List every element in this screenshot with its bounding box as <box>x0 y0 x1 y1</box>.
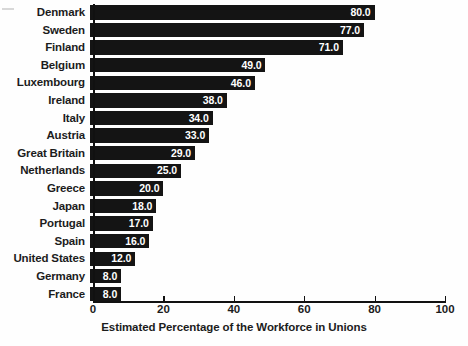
bar-value-label: 77.0 <box>340 25 360 36</box>
chart-row: Ireland38.0 <box>0 92 468 110</box>
bar-value-label: 8.0 <box>103 289 117 300</box>
chart-row: Italy34.0 <box>0 110 468 128</box>
bar-value-label: 12.0 <box>111 253 131 264</box>
category-label: Austria <box>0 130 90 142</box>
chart-row: Greece20.0 <box>0 180 468 198</box>
category-label: Sweden <box>0 25 90 37</box>
chart-row: Belgium49.0 <box>0 57 468 75</box>
bar: 49.0 <box>90 58 265 72</box>
bar-track: 20.0 <box>90 180 468 198</box>
chart-row: Spain16.0 <box>0 233 468 251</box>
category-label: United States <box>0 253 90 265</box>
bar-track: 17.0 <box>90 215 468 233</box>
category-label: Germany <box>0 271 90 283</box>
bar-value-label: 33.0 <box>185 130 205 141</box>
bar: 34.0 <box>90 111 213 125</box>
x-axis-tick-label: 100 <box>435 304 454 316</box>
bar-value-label: 8.0 <box>103 271 117 282</box>
bar: 18.0 <box>90 199 156 213</box>
bar-value-label: 71.0 <box>319 42 339 53</box>
bar-track: 77.0 <box>90 22 468 40</box>
chart-row: Denmark80.0 <box>0 4 468 22</box>
category-label: Spain <box>0 236 90 248</box>
x-axis-tick-label: 0 <box>90 304 96 316</box>
x-axis-tick-label: 40 <box>227 304 240 316</box>
bar-value-label: 16.0 <box>125 236 145 247</box>
bar-value-label: 34.0 <box>189 113 209 124</box>
bar: 17.0 <box>90 216 153 230</box>
x-axis-tick-label: 80 <box>368 304 381 316</box>
chart-row: Great Britain29.0 <box>0 145 468 163</box>
bar: 12.0 <box>90 252 135 266</box>
bar-track: 25.0 <box>90 162 468 180</box>
chart-row: Netherlands25.0 <box>0 162 468 180</box>
x-axis-tick <box>375 296 376 302</box>
category-label: France <box>0 289 90 301</box>
bar-track: 12.0 <box>90 250 468 268</box>
category-label: Denmark <box>0 7 90 19</box>
category-label: Greece <box>0 183 90 195</box>
bar-value-label: 38.0 <box>203 95 223 106</box>
category-label: Belgium <box>0 60 90 72</box>
chart-row: Luxembourg46.0 <box>0 74 468 92</box>
category-label: Ireland <box>0 95 90 107</box>
bar-track: 18.0 <box>90 198 468 216</box>
category-label: Japan <box>0 201 90 213</box>
x-axis-tick <box>304 296 305 302</box>
bar: 80.0 <box>90 5 375 19</box>
x-axis-tick <box>445 296 446 302</box>
category-label: Luxembourg <box>0 77 90 89</box>
chart-row: United States12.0 <box>0 250 468 268</box>
bar-track: 49.0 <box>90 57 468 75</box>
bar-track: 16.0 <box>90 233 468 251</box>
x-axis-title: Estimated Percentage of the Workforce in… <box>0 321 468 333</box>
bar-value-label: 80.0 <box>351 7 371 18</box>
bar-track: 71.0 <box>90 39 468 57</box>
x-axis-tick <box>163 296 164 302</box>
bar: 16.0 <box>90 234 149 248</box>
chart-row: Sweden77.0 <box>0 22 468 40</box>
bar-value-label: 46.0 <box>231 78 251 89</box>
bar-track: 80.0 <box>90 4 468 22</box>
x-axis-line <box>93 301 446 303</box>
x-axis-tick-label: 20 <box>157 304 170 316</box>
bar: 29.0 <box>90 146 195 160</box>
bar-track: 46.0 <box>90 74 468 92</box>
bar-track: 29.0 <box>90 145 468 163</box>
bar-value-label: 29.0 <box>171 148 191 159</box>
bar: 46.0 <box>90 76 255 90</box>
category-label: Portugal <box>0 218 90 230</box>
chart-row: Japan18.0 <box>0 198 468 216</box>
bar-track: 34.0 <box>90 110 468 128</box>
bar-track: 38.0 <box>90 92 468 110</box>
bar: 20.0 <box>90 181 163 195</box>
bar: 38.0 <box>90 93 227 107</box>
bar-chart: Denmark80.0Sweden77.0Finland71.0Belgium4… <box>0 0 468 346</box>
bar: 25.0 <box>90 164 181 178</box>
chart-row: Germany8.0 <box>0 268 468 286</box>
category-label: Netherlands <box>0 165 90 177</box>
chart-row: Finland71.0 <box>0 39 468 57</box>
x-axis-tick-label: 60 <box>298 304 311 316</box>
chart-row: Austria33.0 <box>0 127 468 145</box>
category-label: Great Britain <box>0 148 90 160</box>
category-label: Finland <box>0 42 90 54</box>
bar: 77.0 <box>90 23 364 37</box>
bar: 33.0 <box>90 128 209 142</box>
x-axis-tick <box>234 296 235 302</box>
chart-rows: Denmark80.0Sweden77.0Finland71.0Belgium4… <box>0 4 468 303</box>
bar-track: 8.0 <box>90 268 468 286</box>
y-axis-line <box>93 4 95 302</box>
bar-value-label: 17.0 <box>129 218 149 229</box>
bar-value-label: 20.0 <box>139 183 159 194</box>
chart-row: Portugal17.0 <box>0 215 468 233</box>
bar: 71.0 <box>90 40 343 54</box>
bar: 8.0 <box>90 287 121 301</box>
bar-value-label: 25.0 <box>157 165 177 176</box>
bar-value-label: 49.0 <box>241 60 261 71</box>
bar-track: 33.0 <box>90 127 468 145</box>
bar: 8.0 <box>90 269 121 283</box>
category-label: Italy <box>0 113 90 125</box>
bar-value-label: 18.0 <box>132 201 152 212</box>
